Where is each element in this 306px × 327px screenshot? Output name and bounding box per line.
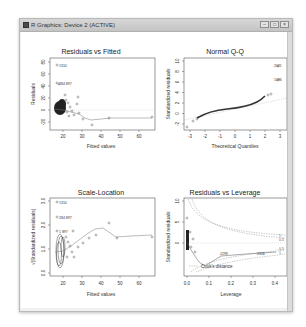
x-tick: 20 (60, 134, 66, 139)
plot-title: Residuals vs Leverage (190, 189, 261, 197)
y-tick: 40 (41, 83, 46, 89)
plot-title: Residuals vs Fitted (61, 48, 120, 55)
contour-label: 1 (279, 251, 281, 255)
x-tick: 30 (79, 281, 85, 286)
title-bar[interactable]: R Graphics: Device 2 (ACTIVE) – □ × (20, 19, 292, 32)
x-tick: 60 (136, 134, 142, 139)
y-tick: 0 (175, 241, 180, 244)
x-tick: -1 (218, 134, 222, 139)
point-label: 284 897 (59, 82, 72, 86)
point-label: 284 897 (59, 216, 72, 220)
y-axis-label: Residuals (30, 83, 36, 105)
y-tick: 6 (175, 80, 180, 83)
y-tick: 4 (175, 91, 180, 94)
y-axis-label: √|Standardized residuals| (30, 209, 36, 265)
x-tick: 0.3 (250, 281, 257, 286)
point-label: 1 897 (59, 230, 68, 234)
plot-title: Normal Q-Q (206, 48, 244, 56)
y-tick: 0 (175, 112, 180, 115)
y-tick: -20 (41, 118, 46, 125)
y-tick: 8 (175, 70, 180, 73)
y-tick: 0.0 (41, 269, 46, 276)
x-tick: 3 (279, 134, 282, 139)
x-tick: 0 (234, 134, 237, 139)
point-label: 1310 (59, 201, 67, 205)
y-tick: 80 (41, 59, 46, 65)
x-axis-label: Theoretical Quantiles (211, 143, 259, 149)
x-tick: 60 (136, 281, 142, 286)
normal-qq-plot: Normal Q-Q 10 8 6 4 2 0 -2 (165, 48, 287, 149)
maximize-button[interactable]: □ (270, 21, 279, 28)
residuals-vs-fitted-plot: Residuals vs Fitted 80 60 40 20 0 -20 (30, 48, 155, 149)
residuals-vs-leverage-plot: Residuals vs Leverage 10 5 0 Standardize… (165, 189, 287, 297)
y-tick: 1.0 (41, 245, 46, 252)
x-tick: 50 (117, 134, 123, 139)
point-label: 1310 (59, 64, 67, 68)
x-axis-label: Fitted values (87, 291, 116, 297)
minimize-button[interactable]: – (260, 21, 269, 28)
x-axis-label: Leverage (221, 291, 242, 297)
x-tick: 0.4 (272, 281, 279, 286)
x-tick: 0.0 (184, 281, 191, 286)
y-tick: 60 (41, 71, 46, 77)
window-frame-right (287, 32, 292, 311)
y-tick: -2 (175, 122, 180, 126)
y-tick: 20 (41, 95, 46, 101)
x-tick: 30 (79, 134, 85, 139)
x-tick: 1 (249, 134, 252, 139)
plot-canvas: Residuals vs Fitted 80 60 40 20 0 -20 (21, 32, 287, 308)
close-button[interactable]: × (280, 21, 289, 28)
y-tick: 10 (175, 198, 180, 204)
point-label: 2021 (274, 64, 282, 68)
y-axis-label: Standardized residuals (165, 211, 171, 262)
r-graphics-window: R Graphics: Device 2 (ACTIVE) – □ × Resi… (19, 18, 293, 312)
y-tick: 10 (175, 58, 180, 64)
x-tick: 40 (98, 281, 104, 286)
legend-label: Cook's distance (201, 264, 233, 269)
y-tick: 2.0 (41, 221, 46, 228)
y-tick: 5 (175, 220, 180, 223)
r-app-icon (23, 22, 29, 28)
x-tick: 0.1 (206, 281, 213, 286)
point-label: 2316 (257, 252, 265, 256)
point-label: 2299 (220, 252, 228, 256)
x-tick: -2 (203, 134, 207, 139)
x-tick: -3 (188, 134, 192, 139)
y-tick: 3.0 (41, 197, 46, 204)
x-tick: 50 (117, 281, 123, 286)
x-tick: 0.2 (228, 281, 235, 286)
x-tick: 2 (264, 134, 267, 139)
contour-label: 0.5 (279, 238, 284, 242)
y-axis-label: Standardized residuals (165, 68, 171, 119)
point-label: 1096 (274, 78, 282, 82)
window-title: R Graphics: Device 2 (ACTIVE) (31, 20, 115, 30)
y-tick: 2 (175, 101, 180, 104)
x-tick: 40 (98, 134, 104, 139)
scale-location-plot: Scale-Location 3.0 2.0 1.0 0.0 √|Standar… (30, 189, 155, 297)
plot-title: Scale-Location (78, 189, 124, 196)
x-axis-label: Fitted values (87, 143, 116, 149)
x-tick: 20 (60, 281, 66, 286)
y-tick: 0 (41, 108, 46, 111)
